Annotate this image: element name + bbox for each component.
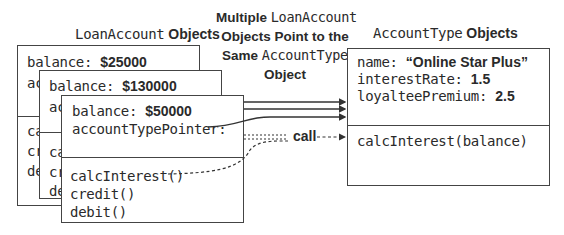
call-label: call xyxy=(293,128,316,144)
pointer-arrow-3 xyxy=(208,117,345,127)
call-dotted-3 xyxy=(168,141,288,174)
connector-arrows xyxy=(0,0,564,235)
